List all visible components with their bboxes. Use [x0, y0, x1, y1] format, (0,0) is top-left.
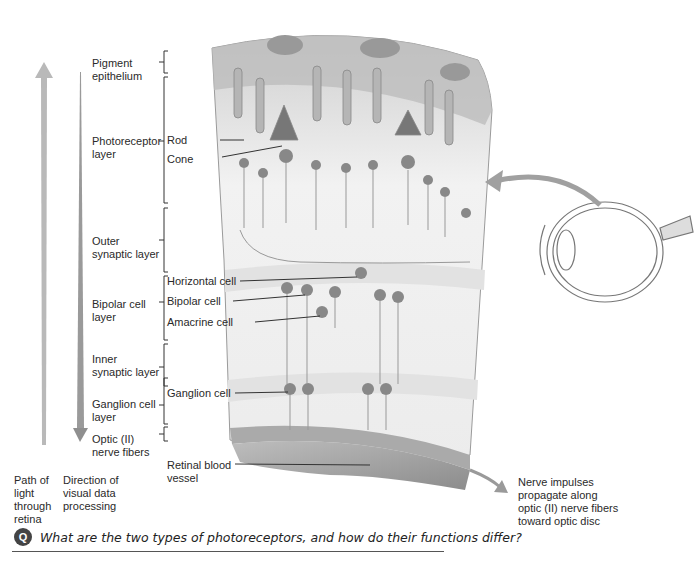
label-cone: Cone — [167, 153, 193, 166]
label-photoreceptor-layer: Photoreceptor layer — [92, 135, 161, 161]
question-icon: Q — [14, 528, 32, 546]
eyeball-inset — [540, 202, 693, 302]
light-path-arrow — [35, 62, 53, 445]
layer-brackets — [159, 51, 168, 441]
label-outer-synaptic-layer: Outer synaptic layer — [92, 235, 159, 261]
label-pigment-epithelium: Pigment epithelium — [92, 57, 142, 83]
label-rod: Rod — [167, 134, 187, 147]
question-underline — [12, 551, 444, 552]
nerve-impulse-arrow — [470, 470, 508, 493]
label-optic-nerve-fibers: Optic (II) nerve fibers — [92, 433, 149, 459]
magnify-arrow — [485, 170, 600, 205]
caption-nerve-impulses: Nerve impulses propagate along optic (II… — [518, 476, 618, 528]
label-horizontal-cell: Horizontal cell — [167, 275, 236, 288]
review-question: What are the two types of photoreceptors… — [40, 530, 522, 545]
label-ganglion-cell: Ganglion cell — [167, 387, 231, 400]
label-ganglion-cell-layer: Ganglion cell layer — [92, 398, 156, 424]
label-retinal-blood-vessel: Retinal blood vessel — [167, 459, 231, 485]
label-amacrine-cell: Amacrine cell — [167, 316, 233, 329]
label-inner-synaptic-layer: Inner synaptic layer — [92, 353, 159, 379]
caption-processing-direction: Direction of visual data processing — [63, 474, 119, 513]
label-bipolar-cell: Bipolar cell — [167, 295, 221, 308]
label-bipolar-cell-layer: Bipolar cell layer — [92, 298, 146, 324]
caption-light-path: Path of light through retina — [14, 474, 51, 526]
processing-direction-arrow — [73, 72, 88, 442]
